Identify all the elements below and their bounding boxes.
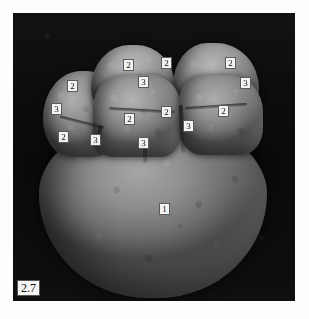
annotation-callout-3: 3 [90, 134, 101, 146]
figure-number-plate: 2.7 [17, 280, 40, 296]
figure-page: 222332322232331 2.7 [0, 0, 309, 319]
annotation-callout-2: 2 [218, 105, 229, 117]
annotation-callout-2: 2 [123, 59, 134, 71]
annotation-callout-2: 2 [225, 57, 236, 69]
annotation-callout-1: 1 [159, 203, 170, 215]
sem-micrograph-frame: 222332322232331 2.7 [13, 13, 295, 301]
annotation-callout-2: 2 [161, 106, 172, 118]
annotation-callout-3: 3 [240, 77, 251, 89]
annotation-callout-2: 2 [67, 80, 78, 92]
annotation-callout-3: 3 [138, 76, 149, 88]
annotation-callout-3: 3 [138, 137, 149, 149]
annotation-callout-2: 2 [58, 131, 69, 143]
annotation-callout-3: 3 [51, 103, 62, 115]
annotation-callout-3: 3 [183, 120, 194, 132]
annotation-callout-2: 2 [161, 57, 172, 69]
annotation-callout-2: 2 [124, 113, 135, 125]
